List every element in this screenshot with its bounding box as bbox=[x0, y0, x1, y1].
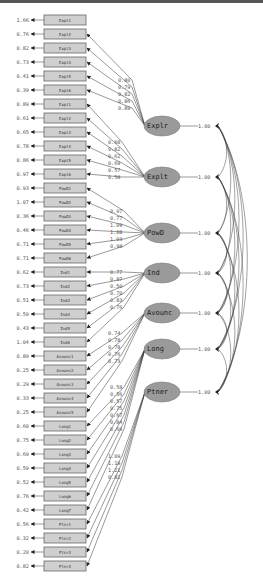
residual-variance: 0.20 bbox=[17, 549, 30, 555]
indicator-label: Long6 bbox=[59, 494, 72, 499]
loading-value: 0.57 bbox=[108, 167, 121, 173]
covariance-arrowhead bbox=[215, 389, 219, 395]
indicator-label: PowD1 bbox=[59, 186, 72, 191]
residual-variance: 0.76 bbox=[17, 493, 30, 499]
indicator-label: Expl2 bbox=[59, 32, 72, 37]
indicator-avounc1-24: 0.89Avounc1 bbox=[17, 351, 87, 361]
loading-value: 0.77 bbox=[110, 269, 123, 275]
indicator-powd1-12: 0.93PowD1 bbox=[17, 183, 87, 193]
loading-value: 0.70 bbox=[110, 290, 123, 296]
residual-variance: 0.93 bbox=[17, 185, 30, 191]
residual-variance: 0.52 bbox=[17, 479, 30, 485]
indicator-label: Avounc5 bbox=[57, 410, 74, 415]
factor-explr: Explr1.00 bbox=[144, 116, 211, 136]
residual-variance: 0.97 bbox=[17, 171, 30, 177]
indicator-powd4-15: 0.46PowD4 bbox=[17, 225, 87, 235]
indicator-boxes: 1.66Expl10.76Expl20.82Expl30.73Expl40.41… bbox=[17, 15, 87, 571]
indicator-ind4-21: 0.59Ind4 bbox=[17, 309, 87, 319]
indicator-expl3-8: 0.65Expl3 bbox=[17, 127, 87, 137]
loading-value: 1.19 bbox=[108, 460, 121, 466]
indicator-label: Long3 bbox=[59, 452, 72, 457]
loading-value: 0.73 bbox=[108, 358, 121, 364]
indicator-label: Avounc1 bbox=[57, 354, 74, 359]
covariance-arrowhead bbox=[215, 230, 219, 236]
indicator-long2-30: 0.75Long2 bbox=[17, 435, 87, 445]
residual-variance: 0.25 bbox=[17, 367, 30, 373]
factor-label: Avounc bbox=[147, 309, 172, 317]
residual-variance: 0.61 bbox=[17, 115, 30, 121]
indicator-expl1-0: 1.66Expl1 bbox=[17, 15, 87, 25]
factor-label: Explr bbox=[147, 122, 168, 130]
indicator-label: Long4 bbox=[59, 466, 72, 471]
indicator-label: Avounc3 bbox=[57, 382, 74, 387]
indicator-label: PowD3 bbox=[59, 214, 72, 219]
loading-value: 0.82 bbox=[108, 146, 121, 152]
factor-label: Ptner bbox=[147, 388, 168, 396]
indicator-ptnr2-37: 0.32Ptnr2 bbox=[17, 533, 87, 543]
factor-label: PowD bbox=[147, 229, 164, 237]
indicator-label: Expl1 bbox=[59, 18, 72, 23]
indicator-expl6-5: 0.39Expl6 bbox=[17, 85, 87, 95]
residual-variance: 0.86 bbox=[17, 157, 30, 163]
residual-variance: 0.39 bbox=[17, 87, 30, 93]
indicator-label: Expl4 bbox=[59, 144, 72, 149]
indicator-label: Expl6 bbox=[59, 88, 72, 93]
loading-value: 1.08 bbox=[110, 229, 123, 235]
residual-variance: 0.32 bbox=[17, 535, 30, 541]
indicator-label: Ptnr2 bbox=[59, 536, 72, 541]
loading-value: 0.69 bbox=[108, 160, 121, 166]
loading-value: 0.78 bbox=[108, 337, 121, 343]
loading-value: 0.78 bbox=[108, 344, 121, 350]
indicator-label: Expl5 bbox=[59, 74, 72, 79]
residual-variance: 0.89 bbox=[17, 353, 30, 359]
indicator-label: Expl3 bbox=[59, 46, 72, 51]
residual-variance: 0.76 bbox=[17, 31, 30, 37]
loading-value: 0.79 bbox=[118, 84, 131, 90]
indicator-ptnr4-39: 0.82Ptnr4 bbox=[17, 561, 87, 571]
indicator-long1-29: 0.60Long1 bbox=[17, 421, 87, 431]
residual-variance: 0.29 bbox=[17, 381, 30, 387]
indicator-label: Long5 bbox=[59, 480, 72, 485]
indicator-label: Ptnr1 bbox=[59, 522, 72, 527]
residual-variance: 0.71 bbox=[17, 255, 30, 261]
residual-variance: 0.56 bbox=[17, 521, 30, 527]
indicator-expl4-3: 0.73Expl4 bbox=[17, 57, 87, 67]
factor-explt: Explt1.00 bbox=[144, 167, 211, 187]
indicator-ind6-23: 1.04Ind6 bbox=[17, 337, 87, 347]
loading-value: 0.56 bbox=[110, 391, 123, 397]
indicator-label: Ind2 bbox=[60, 284, 70, 289]
residual-variance: 0.41 bbox=[17, 73, 30, 79]
factor-ind: Ind1.00 bbox=[144, 263, 211, 283]
factor-long: Long1.00 bbox=[144, 339, 211, 359]
factor-variance: 1.00 bbox=[198, 174, 211, 180]
residual-variance: 0.62 bbox=[17, 269, 30, 275]
loading-value: 0.98 bbox=[110, 243, 123, 249]
indicator-expl2-7: 0.61Expl2 bbox=[17, 113, 87, 123]
indicator-label: Long7 bbox=[59, 508, 72, 513]
indicator-ptnr3-38: 0.20Ptnr3 bbox=[17, 547, 87, 557]
loading-value: 0.57 bbox=[110, 398, 123, 404]
indicator-long3-31: 0.69Long3 bbox=[17, 449, 87, 459]
residual-variance: 1.66 bbox=[17, 17, 30, 23]
factor-label: Ind bbox=[147, 269, 160, 277]
indicator-ind3-20: 0.51Ind3 bbox=[17, 295, 87, 305]
residual-variance: 0.75 bbox=[17, 437, 30, 443]
indicator-label: Ind6 bbox=[60, 340, 70, 345]
indicator-label: Expl5 bbox=[59, 158, 72, 163]
indicator-expl3-2: 0.82Expl3 bbox=[17, 43, 87, 53]
indicator-powd2-13: 1.07PowD2 bbox=[17, 197, 87, 207]
indicator-powd5-16: 0.71PowD5 bbox=[17, 239, 87, 249]
factor-powd: PowD1.00 bbox=[144, 223, 211, 243]
loading-value: 0.69 bbox=[110, 426, 123, 432]
indicator-long5-33: 0.52Long5 bbox=[17, 477, 87, 487]
factor-variance: 1.00 bbox=[198, 270, 211, 276]
indicator-label: PowD6 bbox=[59, 256, 72, 261]
path-diagram: 0.800.790.820.860.890.680.820.620.690.57… bbox=[0, 0, 263, 585]
indicator-expl1-6: 0.89Expl1 bbox=[17, 99, 87, 109]
residual-variance: 0.36 bbox=[17, 213, 30, 219]
indicator-label: Ptnr4 bbox=[59, 564, 72, 569]
loading-value: 0.97 bbox=[110, 208, 123, 214]
loading-value: 0.77 bbox=[110, 215, 123, 221]
residual-variance: 0.65 bbox=[17, 129, 30, 135]
indicator-label: PowD5 bbox=[59, 242, 72, 247]
